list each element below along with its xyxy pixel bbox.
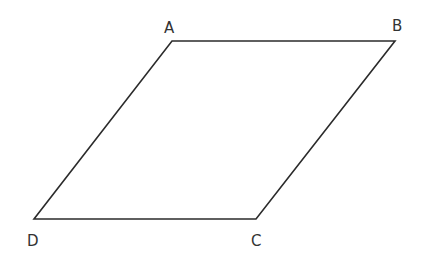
vertex-label-b: B — [392, 17, 402, 35]
parallelogram-shape — [34, 41, 395, 219]
parallelogram-diagram: A B C D — [0, 0, 427, 254]
vertex-label-d: D — [27, 232, 39, 250]
vertex-label-a: A — [164, 19, 175, 37]
vertex-label-c: C — [251, 232, 261, 250]
